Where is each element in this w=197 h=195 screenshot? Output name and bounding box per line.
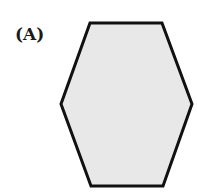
hexagon-shape — [61, 23, 192, 186]
hexagon-figure — [0, 0, 197, 195]
